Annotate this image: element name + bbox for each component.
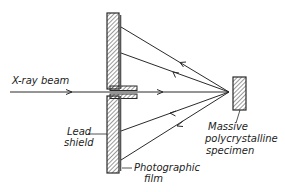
film-label-line2: film — [144, 173, 163, 184]
specimen — [233, 77, 246, 110]
xray-beam-label: X-ray beam — [12, 75, 69, 86]
lead-shield-label-line2: shield — [64, 137, 94, 148]
lead-shield-label-line1: Lead — [67, 126, 91, 137]
specimen-label-line2: polycrystalline — [205, 133, 278, 144]
film-label-line1: Photographic — [134, 162, 200, 173]
specimen-label-line3: specimen — [206, 145, 254, 156]
lead-shield — [107, 13, 119, 173]
specimen-label-line1: Massive — [208, 121, 248, 132]
